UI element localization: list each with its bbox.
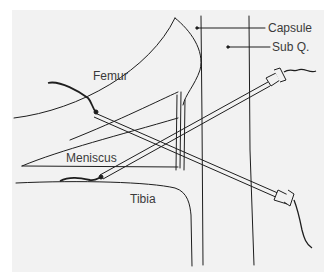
femur-outer-curve xyxy=(14,18,175,118)
synovium-line-3 xyxy=(184,100,185,170)
label-tibia: Tibia xyxy=(130,193,156,205)
wire-upper-right xyxy=(284,69,316,72)
wire-lower-right xyxy=(294,200,312,248)
femur-condyle-curve xyxy=(70,92,178,140)
meniscus-bottom xyxy=(22,166,178,167)
label-meniscus: Meniscus xyxy=(66,152,117,164)
femur-inner-curve xyxy=(175,18,201,105)
capsule-line xyxy=(201,16,203,265)
subq-line xyxy=(249,16,254,265)
label-capsule: Capsule xyxy=(268,22,312,34)
wire-upper-left xyxy=(48,83,96,112)
wire-lower-left xyxy=(60,177,101,181)
label-sub-q: Sub Q. xyxy=(272,41,309,53)
tibia-plateau xyxy=(16,182,192,266)
label-femur: Femur xyxy=(93,70,128,82)
